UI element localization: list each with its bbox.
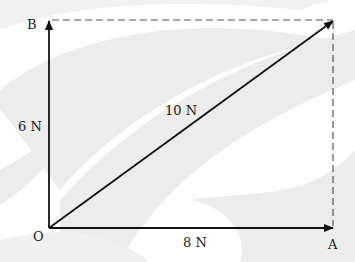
diagram-canvas xyxy=(0,0,355,262)
magnitude-label-ob: 6 N xyxy=(18,120,42,133)
point-label-a-visible: A xyxy=(328,238,337,251)
point-label-o: O xyxy=(33,230,44,243)
magnitude-label-resultant: 10 N xyxy=(165,104,197,117)
magnitude-label-oa: 8 N xyxy=(183,236,207,249)
point-label-b: B xyxy=(27,18,37,31)
vector-diagram: B O A A 6 N 8 N 10 N xyxy=(0,0,355,262)
background-watermark xyxy=(0,0,355,262)
